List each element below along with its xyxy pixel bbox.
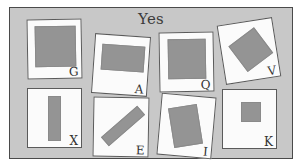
card-label: X bbox=[69, 134, 78, 148]
card-label: E bbox=[136, 143, 145, 157]
shape-square bbox=[168, 39, 207, 80]
shape-rectangle-wide bbox=[101, 44, 146, 73]
shape-rectangle-tall bbox=[168, 104, 203, 148]
yes-panel: Yes G A Q V X E bbox=[9, 7, 293, 159]
card-g: G bbox=[26, 19, 82, 80]
card-label: V bbox=[267, 63, 278, 78]
card-label: Q bbox=[200, 78, 210, 92]
card-q: Q bbox=[158, 32, 214, 93]
figure-canvas: Yes G A Q V X E bbox=[0, 0, 301, 167]
card-i: I bbox=[156, 93, 216, 160]
card-a: A bbox=[91, 33, 151, 97]
shape-square-small bbox=[241, 102, 261, 122]
shape-bar-diagonal bbox=[101, 106, 145, 147]
card-v: V bbox=[217, 17, 282, 85]
card-label: A bbox=[134, 82, 144, 97]
shape-bar-vertical bbox=[48, 96, 61, 141]
shape-square bbox=[35, 26, 77, 68]
card-label: G bbox=[69, 65, 79, 79]
card-label: K bbox=[264, 135, 273, 149]
card-e: E bbox=[92, 97, 149, 158]
card-x: X bbox=[27, 88, 82, 148]
card-k: K bbox=[222, 89, 277, 149]
card-label: I bbox=[202, 145, 208, 159]
